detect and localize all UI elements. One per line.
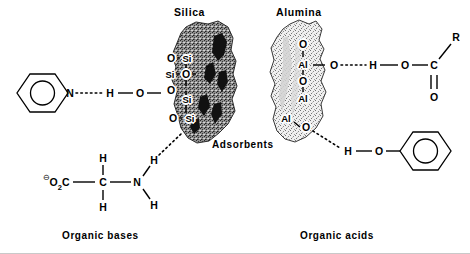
bridge-oxygen-atom: O bbox=[136, 87, 144, 99]
glycinate-carboxylate-group: ⊖O2C bbox=[43, 172, 70, 192]
pyridine-nitrogen-atom: N bbox=[66, 87, 74, 99]
alumina-atom-o-2: O bbox=[299, 75, 307, 87]
footer-organic-bases: Organic bases bbox=[62, 230, 139, 241]
glycinate-amine-hydrogen-bottom: H bbox=[150, 199, 158, 211]
acid-r-group-label: R bbox=[452, 31, 460, 43]
acid-hydroxyl-oxygen-atom: O bbox=[401, 59, 409, 71]
hbond-alumina-to-phenol bbox=[313, 131, 340, 148]
adsorbents-label: Adsorbents bbox=[212, 139, 274, 150]
silica-atom-o-3: O bbox=[167, 84, 175, 96]
silica-atom-si-4: Si bbox=[186, 113, 195, 124]
acid-bridge-hydrogen-atom: H bbox=[369, 59, 377, 71]
silica-atom-si-2: Si bbox=[166, 69, 175, 80]
alumina-atom-o-1: O bbox=[299, 38, 307, 50]
alumina-atom-al-3: Al bbox=[281, 113, 291, 124]
alumina-atom-al-1: Al bbox=[298, 59, 308, 70]
figure-canvas: Silica Alumina Adsorbents Organic bases … bbox=[0, 0, 470, 254]
carboxylic-acid-bonds bbox=[380, 44, 451, 89]
pyridine-ring bbox=[17, 74, 68, 112]
glycinate-alpha-hydrogen-bottom: H bbox=[99, 201, 107, 213]
silica-atom-o-1: O bbox=[167, 52, 175, 64]
glycinate-amine-hydrogen-top: H bbox=[150, 154, 158, 166]
acid-acceptor-oxygen-atom: O bbox=[330, 59, 338, 71]
carboxylate-charge-symbol: ⊖ bbox=[43, 173, 50, 182]
footer-organic-acids: Organic acids bbox=[300, 230, 374, 241]
carboxylate-oxygen-atom: O bbox=[50, 176, 58, 188]
glycinate-nitrogen-atom: N bbox=[133, 176, 141, 188]
acid-carbonyl-carbon-atom: C bbox=[430, 59, 438, 71]
bridge-hydrogen-atom: H bbox=[106, 87, 114, 99]
silica-atom-si-3: Si bbox=[183, 94, 192, 105]
alumina-title: Alumina bbox=[276, 6, 322, 18]
silica-atom-si-1: Si bbox=[183, 53, 192, 64]
glycinate-alpha-hydrogen-top: H bbox=[99, 152, 107, 164]
silica-atom-o-4: O bbox=[169, 112, 177, 124]
acid-carbonyl-oxygen-atom: O bbox=[430, 91, 438, 103]
glycinate-alpha-carbon-atom: C bbox=[99, 176, 107, 188]
hbond-glycinate-to-silica bbox=[159, 134, 181, 155]
phenol-hydroxyl-oxygen-atom: O bbox=[375, 145, 383, 157]
silica-atom-o-2: O bbox=[182, 68, 190, 80]
alumina-atom-o-3: O bbox=[302, 121, 310, 133]
alumina-atom-al-2: Al bbox=[298, 93, 308, 104]
silica-particle bbox=[172, 21, 237, 143]
phenol-ring bbox=[400, 132, 451, 170]
silica-title: Silica bbox=[174, 6, 205, 18]
diagram-vector-layer bbox=[0, 0, 470, 254]
phenol-bridge-hydrogen-atom: H bbox=[344, 145, 352, 157]
carboxylate-carbon-atom: C bbox=[62, 176, 70, 188]
